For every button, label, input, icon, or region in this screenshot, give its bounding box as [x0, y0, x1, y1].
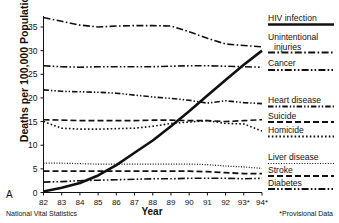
x-tick-label: 86 [112, 198, 121, 207]
legend-label: Suicide [268, 111, 296, 121]
chart-figure: Deaths per 100,000 Population 0510152025… [0, 0, 339, 223]
legend-item-hiv-infection[interactable]: HIV infection [268, 13, 334, 25]
y-tick-label: 0 [33, 188, 38, 198]
panel-letter: A [6, 189, 13, 200]
x-axis-title: Year [141, 206, 162, 217]
x-tick-label: 90 [185, 198, 194, 207]
y-axis-title: Deaths per 100,000 Population [18, 0, 30, 146]
chart-legend: HIV infectionUnintentionalinjuriesCancer… [268, 13, 334, 189]
chart-series-group [44, 18, 263, 192]
legend-label: HIV infection [268, 13, 317, 23]
legend-item-suicide[interactable]: Suicide [268, 111, 334, 122]
series-line-suicide [44, 120, 263, 122]
x-tick-label: 94* [256, 198, 268, 207]
legend-item-stroke[interactable]: Stroke [268, 165, 334, 176]
legend-item-heart-disease[interactable]: Heart disease [268, 95, 334, 107]
legend-item-cancer[interactable]: Cancer [268, 58, 334, 70]
legend-item-unintentional[interactable]: Unintentionalinjuries [268, 32, 334, 53]
legend-label: Liver disease [268, 152, 319, 162]
provisional-note: *Provisional Data [279, 210, 333, 217]
series-line-diabetes [44, 178, 263, 182]
legend-label: Stroke [268, 165, 293, 175]
x-tick-label: 89 [167, 198, 176, 207]
legend-item-diabetes[interactable]: Diabetes [268, 178, 334, 189]
legend-item-liver-disease[interactable]: Liver disease [268, 152, 334, 164]
series-line-liver-disease [44, 163, 263, 168]
legend-label: Homicide [268, 125, 304, 135]
chart-canvas: 05101520253035 828384858687888990919293*… [0, 0, 339, 223]
x-tick-label: 93* [238, 198, 250, 207]
y-tick-label: 5 [33, 164, 38, 174]
x-tick-label: 84 [75, 198, 84, 207]
series-line-stroke [44, 171, 263, 173]
legend-label: Cancer [268, 58, 296, 68]
source-note: National Vital Statistics [6, 210, 78, 217]
x-tick-label: 92 [221, 198, 230, 207]
x-tick-label: 91 [203, 198, 212, 207]
legend-label: Unintentional [268, 32, 318, 42]
legend-label: Heart disease [268, 95, 321, 105]
legend-label: Diabetes [268, 178, 302, 188]
series-line-cancer [44, 66, 263, 67]
series-line-unintentional-injuries [44, 18, 263, 47]
legend-item-homicide[interactable]: Homicide [268, 125, 334, 137]
series-line-homicide [44, 121, 263, 131]
legend-label-line2: injuries [274, 42, 301, 52]
x-tick-label: 83 [57, 198, 66, 207]
x-tick-label: 85 [94, 198, 103, 207]
x-tick-label: 82 [39, 198, 48, 207]
x-tick-label: 87 [130, 198, 139, 207]
series-line-heart-disease [44, 90, 263, 104]
